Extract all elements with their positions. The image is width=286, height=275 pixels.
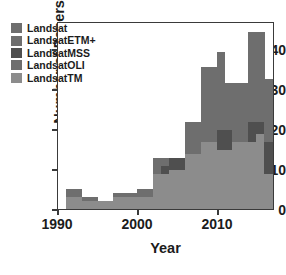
x-tick-mark-2010: [217, 210, 219, 215]
legend-label: LandsatMSS: [27, 48, 90, 59]
legend-label: Landsat: [27, 23, 67, 34]
x-tick-mark-2000: [137, 210, 139, 215]
x-tick-label-1990: 1990: [31, 216, 83, 232]
chart-figure: Number of Papers 40 30 20 10 0 1990 2000…: [0, 0, 286, 275]
x-tick-label-2000: 2000: [111, 216, 163, 232]
legend-item-landsatmss: LandsatMSS: [11, 47, 96, 59]
bar-segment-landsattm: [264, 174, 273, 209]
bar-2016: [264, 79, 273, 209]
legend-swatch-icon: [11, 23, 22, 33]
legend-swatch-icon: [11, 48, 22, 58]
legend: LandsatLandsatETM+LandsatMSSLandsatOLILa…: [11, 22, 96, 84]
x-axis-title: Year: [57, 240, 274, 256]
x-tick-label-2010: 2010: [191, 216, 243, 232]
bar-segment-landsatetm+: [74, 189, 83, 197]
legend-item-landsatetm+: LandsatETM+: [11, 34, 96, 46]
legend-swatch-icon: [11, 60, 22, 70]
x-tick-mark-1990: [57, 210, 59, 215]
legend-swatch-icon: [11, 36, 22, 46]
legend-label: LandsatOLI: [27, 60, 85, 71]
legend-swatch-icon: [11, 73, 22, 83]
legend-item-landsatoli: LandsatOLI: [11, 59, 96, 71]
bar-segment-landsatetm+: [264, 79, 273, 142]
legend-label: LandsatETM+: [27, 35, 96, 46]
legend-item-landsat: Landsat: [11, 22, 96, 34]
bar-segment-landsatmss: [264, 142, 273, 173]
legend-item-landsattm: LandsatTM: [11, 72, 96, 84]
legend-label: LandsatTM: [27, 73, 82, 84]
